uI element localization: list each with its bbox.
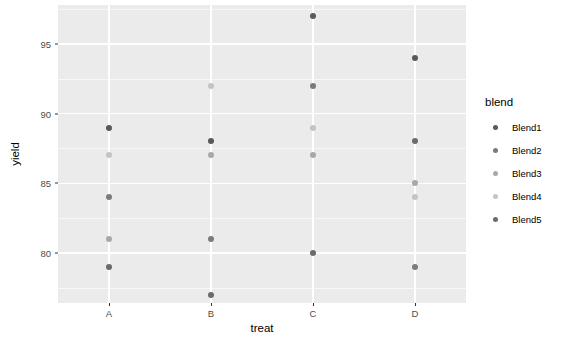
x-tick-label: C — [293, 308, 333, 319]
legend-title: blend — [484, 96, 570, 108]
y-tick-label: 95 — [21, 38, 51, 49]
legend-label: Blend5 — [507, 214, 542, 225]
x-axis-title: treat — [58, 322, 466, 334]
legend-key-dot-icon — [484, 116, 507, 139]
legend-key-dot-icon — [484, 139, 507, 162]
y-axis-tick-group: 80859095 — [20, 0, 58, 347]
data-point — [310, 13, 316, 19]
legend-label: Blend2 — [507, 145, 542, 156]
data-point — [412, 180, 418, 186]
data-point — [106, 264, 112, 270]
gridline-minor-y — [58, 9, 466, 10]
y-tick-label: 90 — [21, 108, 51, 119]
data-point — [208, 83, 214, 89]
data-point — [208, 138, 214, 144]
data-point — [208, 152, 214, 158]
gridline-major-y — [58, 113, 466, 114]
data-point — [310, 250, 316, 256]
data-point — [310, 125, 316, 131]
legend-label: Blend1 — [507, 122, 542, 133]
x-tick-mark — [109, 303, 110, 306]
gridline-minor-y — [58, 79, 466, 80]
x-tick-mark — [313, 303, 314, 306]
x-tick-label: A — [89, 308, 129, 319]
gridline-major-y — [58, 183, 466, 184]
y-tick-label: 85 — [21, 178, 51, 189]
legend-label: Blend3 — [507, 168, 542, 179]
data-point — [310, 83, 316, 89]
data-point — [412, 138, 418, 144]
gridline-major-y — [58, 252, 466, 253]
data-point — [208, 236, 214, 242]
legend-item-blend1: Blend1 — [484, 116, 570, 139]
gridline-major-x — [414, 5, 415, 303]
legend-item-blend3: Blend3 — [484, 162, 570, 185]
legend-key-dot-icon — [484, 208, 507, 231]
data-point — [106, 125, 112, 131]
data-point — [310, 152, 316, 158]
legend-item-blend2: Blend2 — [484, 139, 570, 162]
legend-item-blend4: Blend4 — [484, 185, 570, 208]
legend: blend Blend1Blend2Blend3Blend4Blend5 — [484, 96, 570, 231]
data-point — [208, 292, 214, 298]
data-point — [106, 194, 112, 200]
data-point — [412, 264, 418, 270]
data-point — [106, 152, 112, 158]
y-tick-label: 80 — [21, 247, 51, 258]
legend-entries: Blend1Blend2Blend3Blend4Blend5 — [484, 116, 570, 231]
legend-label: Blend4 — [507, 191, 542, 202]
data-point — [412, 194, 418, 200]
x-tick-mark — [211, 303, 212, 306]
plot-panel — [58, 5, 466, 303]
legend-item-blend5: Blend5 — [484, 208, 570, 231]
x-tick-mark — [415, 303, 416, 306]
x-tick-label: D — [395, 308, 435, 319]
data-point — [412, 55, 418, 61]
x-axis-title-text: treat — [250, 322, 273, 334]
legend-key-dot-icon — [484, 185, 507, 208]
gridline-major-y — [58, 43, 466, 44]
legend-key-dot-icon — [484, 162, 507, 185]
data-point — [106, 236, 112, 242]
gridline-minor-y — [58, 148, 466, 149]
gridline-minor-y — [58, 288, 466, 289]
scatter-plot: yield 80859095 ABCD treat blend Blend1Bl… — [0, 0, 574, 347]
x-tick-label: B — [191, 308, 231, 319]
gridline-minor-y — [58, 218, 466, 219]
